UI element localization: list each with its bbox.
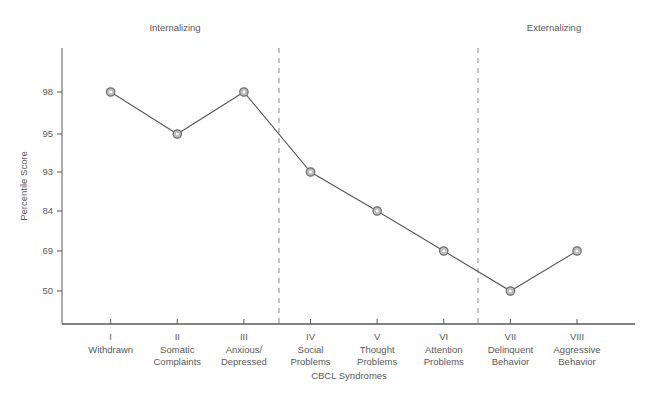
x-category-label: Depressed: [221, 356, 267, 367]
y-tick-label: 98: [42, 86, 53, 97]
x-category-label: Behavior: [492, 356, 530, 367]
y-tick-label: 93: [42, 166, 53, 177]
x-category-numeral: VII: [505, 331, 517, 342]
x-axis-category-labels: IWithdrawnIISomaticComplaintsIIIAnxious/…: [88, 331, 600, 367]
x-category-label: Delinquent: [488, 344, 534, 355]
x-category-numeral: III: [240, 331, 248, 342]
y-tick-label: 50: [42, 285, 53, 296]
data-point-center: [442, 250, 445, 253]
x-category-label: Social: [298, 344, 324, 355]
x-category-numeral: I: [109, 331, 112, 342]
x-category-numeral: VI: [439, 331, 448, 342]
y-tick-label: 84: [42, 205, 53, 216]
data-point-center: [109, 91, 112, 94]
data-point: [173, 130, 181, 138]
band-separator-lines: [279, 48, 478, 324]
data-point: [306, 168, 314, 176]
data-point: [240, 88, 248, 96]
data-point-center: [309, 171, 312, 174]
x-category-label: Aggressive: [554, 344, 601, 355]
data-point: [506, 287, 514, 295]
band-annotations: InternalizingExternalizing: [149, 22, 581, 33]
x-category-numeral: II: [175, 331, 180, 342]
x-category-label: Thought: [360, 344, 395, 355]
data-series-line: [111, 92, 577, 291]
y-axis-title: Percentile Score: [18, 151, 29, 221]
x-category-label: Problems: [424, 356, 464, 367]
data-point: [440, 247, 448, 255]
x-category-numeral: VIII: [570, 331, 584, 342]
data-point-center: [509, 290, 512, 293]
x-category-label: Problems: [290, 356, 330, 367]
x-category-label: Somatic: [160, 344, 195, 355]
data-point-center: [576, 250, 579, 253]
data-point-center: [376, 210, 379, 213]
y-tick-label: 95: [42, 128, 53, 139]
band-label: Internalizing: [149, 22, 200, 33]
x-axis-ticks: [111, 319, 577, 324]
data-point-center: [243, 91, 246, 94]
x-category-numeral: IV: [306, 331, 316, 342]
x-category-label: Anxious/: [226, 344, 263, 355]
x-category-label: Attention: [425, 344, 463, 355]
percentile-score-line-chart: InternalizingExternalizing 989593846950 …: [0, 0, 655, 409]
x-category-label: Withdrawn: [88, 344, 133, 355]
data-point-center: [176, 133, 179, 136]
figure-container: InternalizingExternalizing 989593846950 …: [0, 0, 655, 409]
data-point: [373, 207, 381, 215]
x-category-label: Complaints: [154, 356, 202, 367]
y-axis-ticks: 989593846950: [42, 86, 62, 296]
x-axis-title: CBCL Syndromes: [311, 370, 387, 381]
band-label: Externalizing: [527, 22, 581, 33]
x-category-label: Problems: [357, 356, 397, 367]
data-point: [573, 247, 581, 255]
y-tick-label: 69: [42, 245, 53, 256]
x-category-label: Behavior: [558, 356, 596, 367]
x-category-numeral: V: [374, 331, 381, 342]
data-point: [106, 88, 114, 96]
